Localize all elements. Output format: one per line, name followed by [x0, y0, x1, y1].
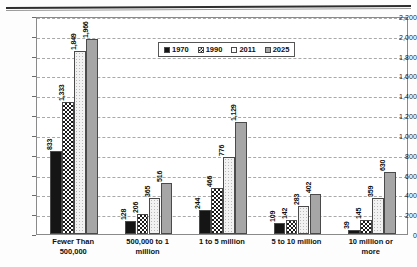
bar-1970: 109 — [274, 223, 286, 234]
bar-column: 402 — [310, 18, 322, 234]
bar-column: 39 — [348, 18, 360, 234]
bar-group: 8331,3331,8491,966 — [37, 18, 111, 234]
bar-value-label: 466 — [206, 176, 213, 187]
legend-label-1990: 1990 — [206, 45, 223, 54]
legend-item-2025: 2025 — [265, 45, 290, 54]
bar-value-label: 39 — [343, 222, 350, 229]
bar-2011: 776 — [223, 157, 235, 234]
bar-column: 359 — [372, 18, 384, 234]
bar-column: 1,333 — [62, 18, 74, 234]
x-axis-label-line: 5 to 10 million — [259, 237, 333, 247]
bar-value-label: 206 — [132, 202, 139, 213]
bar-column: 145 — [360, 18, 372, 234]
y-axis-tick-label: 2,000 — [383, 33, 417, 40]
y-axis-tick-label: 1,400 — [383, 93, 417, 100]
y-axis-tick-mark — [32, 136, 36, 137]
y-axis-tick-mark — [32, 156, 36, 157]
y-axis-tick-label: 2,200 — [383, 14, 417, 21]
bar-1990: 145 — [360, 220, 372, 234]
bar-column: 630 — [384, 18, 396, 234]
bar-value-label: 283 — [293, 194, 300, 205]
y-axis-tick-label: 1,200 — [383, 113, 417, 120]
legend-swatch-icon-1970 — [164, 47, 170, 53]
bar-1970: 244 — [199, 210, 211, 234]
bar-1970: 833 — [50, 151, 62, 234]
legend-swatch-icon-2025 — [265, 47, 271, 53]
bar-1990: 1,333 — [62, 102, 74, 234]
bar-value-label: 1,129 — [230, 105, 237, 122]
bar-value-label: 516 — [156, 171, 163, 182]
bar-column: 833 — [50, 18, 62, 234]
bar-1970: 128 — [125, 221, 137, 234]
y-axis-tick-label: 1,000 — [383, 132, 417, 139]
bar-1990: 466 — [211, 188, 223, 234]
bar-value-label: 630 — [379, 159, 386, 170]
legend-item-1990: 1990 — [198, 45, 223, 54]
y-axis-tick-mark — [32, 17, 36, 18]
legend-swatch-icon-1990 — [198, 47, 204, 53]
bar-2011: 1,849 — [74, 51, 86, 234]
bar-group: 39145359630 — [335, 18, 409, 234]
bar-chart: 8331,3331,8491,9661282063655162444667761… — [0, 0, 417, 267]
bar-1990: 206 — [137, 214, 149, 234]
bar-2011: 283 — [298, 206, 310, 234]
y-axis-tick-label: 800 — [383, 152, 417, 159]
legend-swatch-icon-2011 — [231, 47, 237, 53]
bar-1990: 142 — [286, 220, 298, 234]
x-axis-category-label: 5 to 10 million — [259, 237, 333, 247]
bar-column: 1,849 — [74, 18, 86, 234]
x-axis-label-line: more — [334, 247, 408, 257]
bar-column: 206 — [137, 18, 149, 234]
x-axis-label-line: 500,000 to 1 — [110, 237, 184, 247]
y-axis-tick-label: 400 — [383, 192, 417, 199]
bar-value-label: 833 — [46, 139, 53, 150]
bar-value-label: 365 — [144, 186, 151, 197]
bar-2025: 402 — [310, 194, 322, 234]
x-axis-category-label: Fewer Than500,000 — [36, 237, 110, 256]
y-axis-tick-mark — [32, 176, 36, 177]
y-axis-tick-label: 1,800 — [383, 53, 417, 60]
y-axis-tick-mark — [32, 215, 36, 216]
x-axis-category-labels: Fewer Than500,000500,000 to 1million1 to… — [36, 237, 408, 265]
x-axis-category-label: 10 million ormore — [334, 237, 408, 256]
bar-2025: 630 — [384, 172, 396, 234]
bar-value-label: 1,333 — [58, 84, 65, 101]
y-axis-tick-mark — [32, 37, 36, 38]
bar-value-label: 1,966 — [82, 22, 89, 39]
x-axis-label-line: million — [110, 247, 184, 257]
bar-column: 1,966 — [86, 18, 98, 234]
bar-value-label: 109 — [269, 211, 276, 222]
x-axis-category-label: 1 to 5 million — [185, 237, 259, 247]
bar-value-label: 1,849 — [70, 33, 77, 50]
legend-label-2025: 2025 — [273, 45, 290, 54]
x-axis-label-line: Fewer Than — [36, 237, 110, 247]
y-axis-tick-mark — [32, 235, 36, 236]
x-axis-label-line: 500,000 — [36, 247, 110, 257]
y-axis-tick-mark — [32, 76, 36, 77]
bar-value-label: 244 — [194, 198, 201, 209]
bar-2025: 1,966 — [86, 39, 98, 234]
y-axis-tick-mark — [32, 116, 36, 117]
y-axis-tick-label: 1,600 — [383, 73, 417, 80]
bar-2011: 365 — [149, 198, 161, 234]
y-axis-tick-label: 200 — [383, 212, 417, 219]
bar-value-label: 359 — [367, 186, 374, 197]
bar-value-label: 776 — [218, 145, 225, 156]
chart-legend: 1970 1990 2011 2025 — [158, 42, 295, 57]
bar-2025: 1,129 — [235, 122, 247, 234]
bar-2011: 359 — [372, 198, 384, 234]
y-axis-tick-mark — [32, 57, 36, 58]
x-axis-label-line: 1 to 5 million — [185, 237, 259, 247]
bar-value-label: 145 — [355, 208, 362, 219]
bar-value-label: 402 — [305, 182, 312, 193]
y-axis-tick-mark — [32, 195, 36, 196]
legend-label-1970: 1970 — [172, 45, 189, 54]
bar-value-label: 142 — [281, 208, 288, 219]
legend-item-2011: 2011 — [231, 45, 255, 54]
legend-item-1970: 1970 — [164, 45, 189, 54]
bar-1970: 39 — [348, 230, 360, 234]
x-axis-category-label: 500,000 to 1million — [110, 237, 184, 256]
legend-label-2011: 2011 — [239, 45, 255, 54]
x-axis-label-line: 10 million or — [334, 237, 408, 247]
y-axis-tick-mark — [32, 96, 36, 97]
